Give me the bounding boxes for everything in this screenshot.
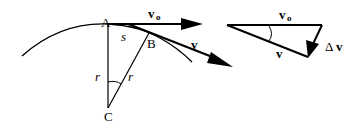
diagram-svg: A B C s r r v o v v o v Δ v <box>0 0 360 130</box>
point-c-label: C <box>104 109 113 124</box>
point-b-label: B <box>147 36 156 51</box>
svg-text:v: v <box>148 6 155 21</box>
svg-text:v: v <box>336 39 343 54</box>
v-vector-arrow <box>128 24 215 58</box>
radius-left-label: r <box>95 69 101 84</box>
arc-length-label: s <box>121 29 126 44</box>
v-label: v <box>191 37 198 52</box>
triangle-v-side <box>227 25 308 57</box>
delta-v-label: Δ v <box>325 39 343 54</box>
radius-right-label: r <box>128 69 134 84</box>
svg-text:v: v <box>279 7 286 22</box>
point-a-label: A <box>101 15 111 30</box>
triangle-v-label: v <box>276 46 283 61</box>
v-arrowhead-icon <box>207 52 233 67</box>
triangle-v0-label: v o <box>279 7 292 23</box>
diagram-canvas: A B C s r r v o v v o v Δ v <box>0 0 360 130</box>
triangle-angle-arc <box>269 26 272 41</box>
v0-arrowhead-icon <box>181 18 203 30</box>
svg-text:Δ: Δ <box>325 39 333 54</box>
angle-arc-c <box>108 81 121 84</box>
svg-text:o: o <box>156 12 161 22</box>
v0-label: v o <box>148 6 161 22</box>
svg-text:o: o <box>287 13 292 23</box>
delta-v-arrow <box>313 25 322 44</box>
delta-v-arrowhead-icon <box>306 40 319 58</box>
